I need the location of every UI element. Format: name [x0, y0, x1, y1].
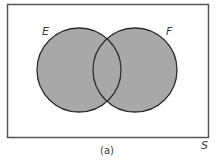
set-e-label: E [42, 26, 49, 37]
figure-caption: (a) [100, 146, 114, 156]
sample-space-label: S [201, 140, 208, 151]
set-f-label: F [166, 26, 172, 37]
venn-diagram [0, 0, 217, 162]
